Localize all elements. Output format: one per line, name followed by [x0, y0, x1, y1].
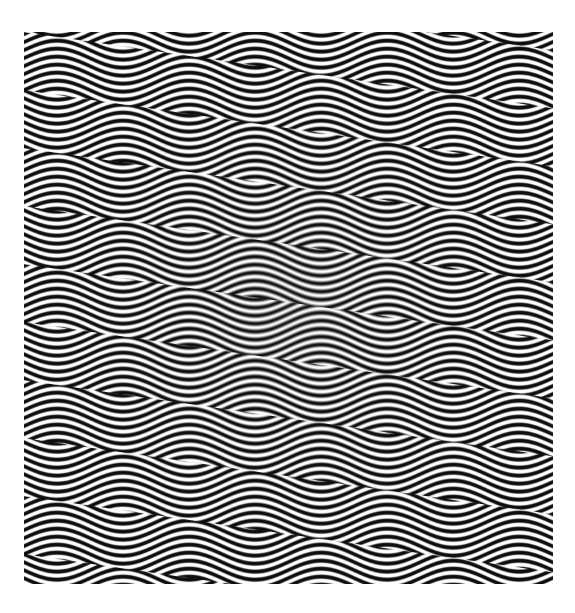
op-art-wave-pattern — [24, 32, 553, 584]
artboard: Optical Art Wave Pattern Black and white… — [0, 0, 575, 613]
